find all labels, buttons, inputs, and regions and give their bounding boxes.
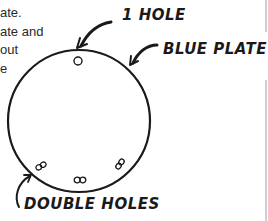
arrow-icon (130, 45, 157, 65)
double-hole (35, 161, 47, 171)
page-edge-divider (265, 80, 267, 221)
one-hole-label: 1 HOLE (122, 6, 186, 24)
double-hole (115, 158, 125, 170)
page-edge-divider (265, 0, 267, 32)
double-hole (74, 177, 86, 183)
single-hole (74, 57, 82, 65)
double-holes-label: DOUBLE HOLES (24, 195, 160, 213)
blue-plate-diagram (0, 0, 268, 221)
arrow-icon (77, 22, 111, 48)
plate-outline (8, 50, 150, 192)
blue-plate-label: BLUE PLATE (163, 40, 267, 58)
